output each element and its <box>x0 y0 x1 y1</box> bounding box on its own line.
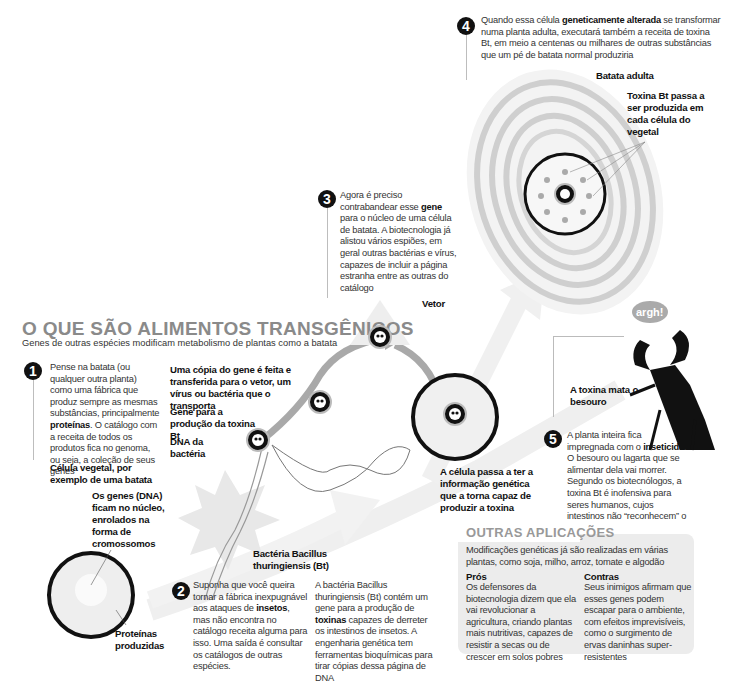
step-3-badge: 3 <box>318 190 336 208</box>
label-vector: Vetor <box>422 298 445 310</box>
pros-text: Os defensores da biotecnologia dizem que… <box>466 582 578 663</box>
label-adult-potato: Batata adulta <box>596 70 654 82</box>
step-3-line <box>327 208 328 298</box>
step-4-text: Quando essa célula geneticamente alterad… <box>481 15 721 61</box>
step-1-text: Pense na batata (ou qualquer outra plant… <box>50 362 160 478</box>
label-genes-dna: Os genes (DNA) ficam no núcleo, enrolado… <box>92 490 172 550</box>
other-applications-intro: Modificações genéticas já são realizadas… <box>466 545 691 568</box>
gene-marker-skull-icon <box>246 428 270 452</box>
beetle-icon: argh! <box>610 300 730 450</box>
page-title: O QUE SÃO ALIMENTOS TRANSGÊNICOS <box>22 318 414 340</box>
vector-skull-icon <box>368 325 392 349</box>
svg-text:argh!: argh! <box>636 306 664 318</box>
label-proteins: Proteínas produzidas <box>115 628 175 652</box>
step-2-bacteria-text: A bactéria Bacillus thuringiensis (Bt) c… <box>315 580 435 684</box>
label-plant-cell: Célula vegetal, por exemplo de uma batat… <box>50 462 170 486</box>
step-3-text: Agora é preciso contrabandear esse gene … <box>340 190 460 294</box>
step-4-badge: 4 <box>457 17 475 35</box>
page-subtitle: Genes de outras espécies modificam metab… <box>22 338 337 348</box>
step-1-line <box>33 380 34 460</box>
step-5-text: A planta inteira fica impregnada com o i… <box>567 430 687 534</box>
step-1-badge: 1 <box>24 362 42 380</box>
step-5-badge: 5 <box>544 430 562 448</box>
label-toxin-kills: A toxina mata o besouro <box>570 384 640 408</box>
step-2-badge: 2 <box>172 582 190 600</box>
step-2-text: Suponha que você queira tornar a fábrica… <box>193 580 308 673</box>
other-applications-title: OUTRAS APLICAÇÕES <box>466 525 614 540</box>
cons-text: Seus inimigos afirmam que esses genes po… <box>584 582 692 663</box>
label-bacteria: Bactéria Bacillus thuringiensis (Bt) <box>253 548 373 572</box>
label-bacteria-dna: DNA da bactéria <box>170 436 230 460</box>
gene-marker-skull-icon <box>308 390 332 414</box>
label-cell-info: A célula passa a ter a informação genéti… <box>440 466 535 514</box>
label-gene-copy: Uma cópia do gene é feita e transferida … <box>170 364 305 412</box>
label-toxin-produced: Toxina Bt passa a ser produzida em cada … <box>627 90 707 138</box>
transformed-cell-diagram <box>410 372 510 472</box>
